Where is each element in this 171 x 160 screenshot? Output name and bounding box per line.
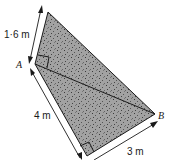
label-bottom-edge: 3 m [127,146,144,157]
vertex-label-A: A [15,59,23,70]
vertex-label-B: B [158,110,164,121]
label-top-edge: 1·6 m [4,29,30,40]
diagram-canvas: 1·6 m 4 m 3 m A B [0,0,171,160]
label-left-edge: 4 m [34,110,51,121]
